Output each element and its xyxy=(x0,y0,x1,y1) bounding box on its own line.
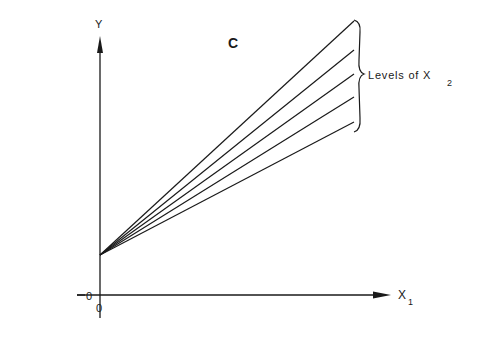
panel-label: C xyxy=(228,35,238,51)
y-axis-label: Y xyxy=(95,18,103,30)
x-axis-arrow-icon xyxy=(373,292,391,299)
annotation-subscript: 2 xyxy=(447,78,452,88)
series-line-2 xyxy=(100,50,354,255)
y-axis-arrow-icon xyxy=(97,36,103,53)
series-line-5 xyxy=(100,122,354,255)
origin-x-label: 0 xyxy=(86,290,92,302)
series-line-4 xyxy=(100,97,354,255)
origin-y-label: 0 xyxy=(96,302,102,314)
x-axis-label: X xyxy=(398,288,406,302)
series-line-3 xyxy=(100,74,354,255)
x-axis-label-subscript: 1 xyxy=(408,297,413,307)
series-lines xyxy=(100,21,354,255)
brace-icon xyxy=(354,20,364,132)
regression-chart: C Y X 1 0 0 Levels of X 2 xyxy=(0,0,481,353)
series-line-1 xyxy=(100,21,354,255)
annotation-label: Levels of X xyxy=(368,69,431,81)
